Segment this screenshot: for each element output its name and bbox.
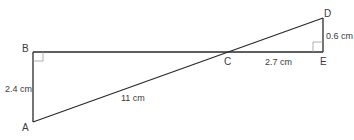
geometry-diagram: B A C E D 2.4 cm 11 cm 2.7 cm 0.6 cm [0, 0, 354, 140]
point-label-e: E [320, 56, 327, 67]
segment-ad [33, 18, 323, 122]
measurement-ce: 2.7 cm [265, 57, 292, 67]
point-label-a: A [22, 122, 29, 133]
right-angle-marker-e [313, 42, 323, 52]
right-angle-marker-b [33, 52, 43, 61]
measurement-ad: 11 cm [121, 93, 145, 103]
measurement-de: 0.6 cm [326, 31, 353, 41]
point-label-b: B [22, 43, 29, 54]
measurement-ab: 2.4 cm [5, 84, 32, 94]
point-label-c: C [224, 56, 231, 67]
point-label-d: D [324, 8, 331, 19]
